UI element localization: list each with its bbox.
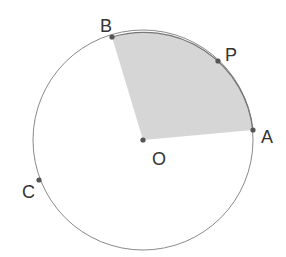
label-B: B [100, 16, 112, 36]
label-O: O [152, 149, 166, 169]
label-P: P [225, 45, 237, 65]
point-P [215, 58, 220, 63]
point-A [250, 127, 255, 132]
point-O [140, 137, 145, 142]
label-C: C [22, 182, 35, 202]
label-A: A [261, 127, 273, 147]
point-C [36, 177, 41, 182]
circle-diagram: O A B P C [0, 0, 286, 257]
